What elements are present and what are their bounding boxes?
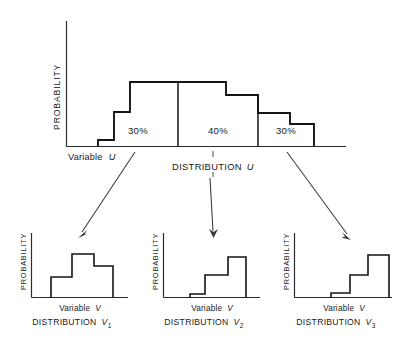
arrow-to-v3-line xyxy=(287,152,347,234)
sub-chart-v1-group: PROBABILITY VariableV DISTRIBUTIONV1 xyxy=(19,233,128,329)
sub-chart-v3-y-axis-label: PROBABILITY xyxy=(282,233,291,290)
main-chart-x-axis-label-symbol: U xyxy=(109,152,116,162)
stratified-distribution-figure: 30% 40% 30% PROBABILITY VariableU DISTRI… xyxy=(0,0,409,343)
sub-chart-v2-caption-subscript: 2 xyxy=(240,322,244,329)
sub-chart-v1-caption-prefix: DISTRIBUTION xyxy=(32,317,96,327)
main-chart-histogram-outline xyxy=(98,82,314,146)
sub-chart-v1-x-axis-label-symbol: V xyxy=(95,304,102,313)
sub-chart-v3-caption-prefix: DISTRIBUTION xyxy=(296,317,360,327)
arrow-to-v2-head xyxy=(209,229,218,238)
figure-canvas: 30% 40% 30% PROBABILITY VariableU DISTRI… xyxy=(0,0,409,343)
main-chart-x-axis-label-prefix: Variable xyxy=(68,152,103,162)
arrow-to-v1-line xyxy=(82,152,135,232)
sub-chart-v3-x-axis-label-prefix: Variable xyxy=(323,304,354,313)
main-chart-y-axis-label: PROBABILITY xyxy=(52,64,62,130)
sub-chart-v3-x-axis-label-symbol: V xyxy=(359,304,366,313)
main-chart-caption-prefix: DISTRIBUTION xyxy=(172,161,242,172)
main-chart-group: 30% 40% 30% PROBABILITY VariableU DISTRI… xyxy=(52,21,346,177)
sub-chart-v3-x-axis-label: VariableV xyxy=(323,304,366,313)
sub-chart-v3-caption: DISTRIBUTIONV3 xyxy=(296,317,375,329)
sub-chart-v1-caption-subscript: 1 xyxy=(108,322,112,329)
sub-chart-v3-group: PROBABILITY VariableV DISTRIBUTIONV3 xyxy=(282,233,392,329)
sub-chart-v2-histogram-outline xyxy=(190,257,246,297)
sub-chart-v1-x-axis-label-prefix: Variable xyxy=(59,304,90,313)
sub-chart-v1-x-axis-label: VariableV xyxy=(59,304,102,313)
sub-chart-v2-x-axis-label-prefix: Variable xyxy=(191,304,222,313)
sub-chart-v3-caption-subscript: 3 xyxy=(372,322,376,329)
sub-chart-v3-histogram-outline xyxy=(331,255,389,297)
sub-chart-v2-caption-prefix: DISTRIBUTION xyxy=(164,317,228,327)
main-chart-pct-center: 40% xyxy=(208,125,228,136)
sub-chart-v2-x-axis-label: VariableV xyxy=(191,304,234,313)
main-chart-pct-right: 30% xyxy=(276,125,296,136)
main-chart-pct-left: 30% xyxy=(128,125,148,136)
arrow-to-v2-line xyxy=(210,178,213,231)
sub-chart-v1-histogram-outline xyxy=(51,254,113,297)
sub-chart-v2-y-axis-label: PROBABILITY xyxy=(151,233,160,290)
main-chart-caption: DISTRIBUTIONU xyxy=(172,161,254,172)
sub-chart-v2-x-axis-label-symbol: V xyxy=(227,304,234,313)
main-chart-x-axis-label: VariableU xyxy=(68,152,116,162)
sub-chart-v1-caption: DISTRIBUTIONV1 xyxy=(32,317,111,329)
sub-chart-v2-group: PROBABILITY VariableV DISTRIBUTIONV2 xyxy=(151,233,260,329)
sub-chart-v1-y-axis-label: PROBABILITY xyxy=(19,233,28,290)
sub-chart-v2-caption: DISTRIBUTIONV2 xyxy=(164,317,243,329)
main-chart-caption-symbol: U xyxy=(247,161,254,172)
